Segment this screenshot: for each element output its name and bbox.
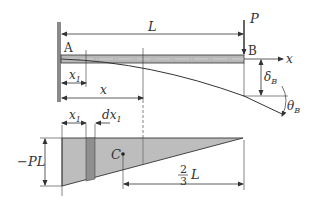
beam-diagram: L P A B x δB θB x1 x x1 dx1 −PL C xyxy=(0,0,311,211)
deflection-label: δB xyxy=(264,70,277,86)
label-b: B xyxy=(248,44,257,58)
moment-strip xyxy=(86,138,95,181)
fraction-denominator: 3 xyxy=(180,175,187,188)
dx1-label: dx1 xyxy=(102,108,122,124)
rotation-arc xyxy=(282,86,286,116)
centroid-label: C xyxy=(111,147,121,162)
max-moment-label: −PL xyxy=(17,154,45,169)
x-axis-label: x xyxy=(286,52,293,66)
load-label: P xyxy=(249,11,259,26)
length-label: L xyxy=(147,19,157,34)
x-label: x xyxy=(100,83,107,97)
deflection-curve xyxy=(61,59,282,114)
x1-label-lower: x1 xyxy=(69,108,81,124)
fixed-wall xyxy=(57,22,61,102)
label-a: A xyxy=(63,41,73,55)
fraction-variable: L xyxy=(190,167,200,182)
rotation-label: θB xyxy=(287,99,300,115)
x1-label: x1 xyxy=(69,68,81,84)
